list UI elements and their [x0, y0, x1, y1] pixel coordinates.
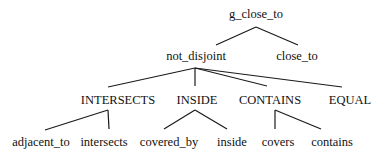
node-intersects: intersects [80, 135, 127, 149]
node-intersects-upper: INTERSECTS [81, 93, 155, 107]
node-equal: EQUAL [329, 93, 371, 107]
edge-contains_u-to-contains [275, 110, 321, 129]
node-contains-upper: CONTAINS [239, 93, 301, 107]
edge-not_disjoint-to-equal_u [195, 68, 342, 87]
node-covers: covers [262, 135, 295, 149]
edge-inside_u-to-covered_by [164, 110, 195, 129]
node-adjacent-to: adjacent_to [12, 135, 70, 149]
node-close-to: close_to [276, 49, 318, 63]
edge-root-to-close_to [256, 27, 298, 45]
node-inside: inside [217, 135, 247, 149]
tree-edges [45, 27, 342, 130]
node-g-close-to: g_close_to [229, 7, 283, 21]
node-contains: contains [311, 135, 353, 149]
edge-not_disjoint-to-intersects_u [108, 68, 195, 87]
node-covered-by: covered_by [140, 135, 199, 149]
node-inside-upper: INSIDE [177, 93, 218, 107]
edge-intersects_u-to-adjacent_to [45, 110, 108, 130]
edge-intersects_u-to-intersects [108, 110, 109, 129]
edge-root-to-not_disjoint [216, 27, 256, 45]
edge-not_disjoint-to-contains_u [195, 68, 267, 86]
node-not-disjoint: not_disjoint [166, 49, 226, 63]
relation-hierarchy-tree: g_close_to not_disjoint close_to INTERSE… [0, 0, 389, 159]
edge-inside_u-to-inside [195, 110, 227, 129]
